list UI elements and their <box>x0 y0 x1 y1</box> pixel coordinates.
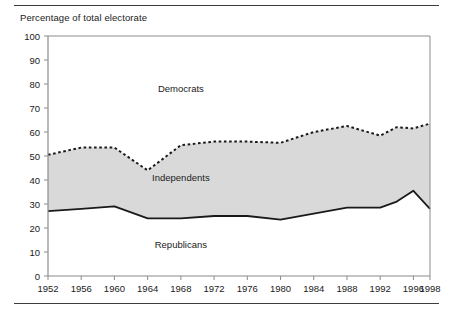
series-label-democrats: Democrats <box>158 83 204 94</box>
y-tick-label: 0 <box>35 271 40 282</box>
top-divider-rule <box>14 5 439 6</box>
bottom-divider-rule <box>14 303 439 304</box>
y-tick-label: 10 <box>29 247 40 258</box>
x-tick-label: 1964 <box>137 283 158 294</box>
x-tick-label: 1976 <box>237 283 258 294</box>
x-tick-label: 1968 <box>170 283 191 294</box>
x-axis-ticks: 1952195619601964196819721976198019841988… <box>37 276 440 294</box>
series-label-independents: Independents <box>152 172 210 183</box>
chart-figure: Percentage of total electorate 010203040… <box>0 0 453 315</box>
y-tick-label: 50 <box>29 151 40 162</box>
x-tick-label: 1998 <box>419 283 440 294</box>
y-tick-label: 100 <box>24 31 40 42</box>
y-tick-label: 20 <box>29 223 40 234</box>
y-tick-label: 70 <box>29 103 40 114</box>
y-tick-label: 40 <box>29 175 40 186</box>
party-identification-area-chart: 0102030405060708090100 19521956196019641… <box>0 0 453 315</box>
series-label-republicans: Republicans <box>155 239 208 250</box>
x-tick-label: 1952 <box>37 283 58 294</box>
x-tick-label: 1992 <box>370 283 391 294</box>
y-tick-label: 90 <box>29 55 40 66</box>
chart-plot-area: 0102030405060708090100 19521956196019641… <box>24 31 440 295</box>
chart-axis-title: Percentage of total electorate <box>20 12 147 23</box>
y-axis-ticks: 0102030405060708090100 <box>24 31 48 282</box>
x-tick-label: 1972 <box>204 283 225 294</box>
x-tick-label: 1988 <box>336 283 357 294</box>
y-tick-label: 60 <box>29 127 40 138</box>
x-tick-label: 1980 <box>270 283 291 294</box>
x-tick-label: 1984 <box>303 283 324 294</box>
x-tick-label: 1956 <box>71 283 92 294</box>
x-tick-label: 1960 <box>104 283 125 294</box>
y-tick-label: 30 <box>29 199 40 210</box>
y-tick-label: 80 <box>29 79 40 90</box>
